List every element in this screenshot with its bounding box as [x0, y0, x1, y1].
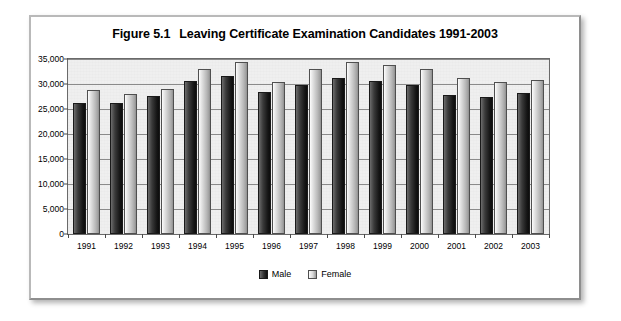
x-axis-tick-label-1996: 1996 — [262, 241, 281, 251]
x-axis-tick-label-2000: 2000 — [410, 241, 429, 251]
bar-male-1998 — [332, 78, 345, 234]
bar-male-1992 — [110, 103, 123, 235]
bar-group-2001 — [443, 59, 470, 234]
bar-female-1996 — [272, 82, 285, 234]
bar-male-1994 — [184, 81, 197, 234]
bar-group-1995 — [221, 59, 248, 234]
bar-female-2002 — [494, 82, 507, 234]
bars-layer — [68, 59, 549, 234]
bar-male-2003 — [517, 93, 530, 235]
x-axis-tick-label-1994: 1994 — [188, 241, 207, 251]
bar-male-1995 — [221, 76, 234, 235]
bar-group-1996 — [258, 59, 285, 234]
x-axis-tick-label-1992: 1992 — [114, 241, 133, 251]
figure-card: Figure 5.1Leaving Certificate Examinatio… — [29, 15, 581, 300]
legend-label-female: Female — [321, 269, 351, 279]
x-axis-tick-mark — [68, 234, 69, 238]
y-axis-tick-label: 35,000 — [38, 54, 64, 64]
figure-title-text: Leaving Certificate Examination Candidat… — [179, 27, 498, 41]
x-axis-tick-mark — [364, 234, 365, 238]
chart-title: Figure 5.1Leaving Certificate Examinatio… — [31, 27, 579, 41]
figure-number: Figure 5.1 — [112, 27, 170, 41]
bar-female-1995 — [235, 62, 248, 234]
x-axis-tick-label-2003: 2003 — [521, 241, 540, 251]
chart-legend: Male Female — [31, 269, 579, 279]
bar-female-1992 — [124, 94, 137, 235]
x-axis-tick-mark — [142, 234, 143, 238]
x-axis-tick-label-1999: 1999 — [373, 241, 392, 251]
x-axis-tick-label-2002: 2002 — [484, 241, 503, 251]
bar-group-1993 — [147, 59, 174, 234]
bar-male-2001 — [443, 95, 456, 235]
bar-male-1999 — [369, 81, 382, 235]
y-axis-tick-label: 25,000 — [38, 104, 64, 114]
bar-male-1991 — [73, 103, 86, 235]
legend-label-male: Male — [272, 269, 292, 279]
y-axis-tick-label: 30,000 — [38, 79, 64, 89]
x-axis-tick-label-1995: 1995 — [225, 241, 244, 251]
x-axis-tick-mark — [105, 234, 106, 238]
bar-male-1993 — [147, 96, 160, 234]
x-axis-tick-mark — [512, 234, 513, 238]
x-axis-tick-label-1991: 1991 — [77, 241, 96, 251]
y-axis-tick-label: 15,000 — [38, 154, 64, 164]
x-axis-tick-mark — [216, 234, 217, 238]
x-axis-tick-mark — [475, 234, 476, 238]
bar-group-1998 — [332, 59, 359, 234]
y-axis-tick-label: 20,000 — [38, 129, 64, 139]
legend-item-female: Female — [308, 269, 351, 279]
bar-female-1998 — [346, 62, 359, 234]
x-axis-tick-label-2001: 2001 — [447, 241, 466, 251]
x-axis-tick-mark — [401, 234, 402, 238]
bar-female-1993 — [161, 89, 174, 234]
bar-group-2000 — [406, 59, 433, 234]
x-axis-tick-label-1993: 1993 — [151, 241, 170, 251]
bar-male-1997 — [295, 85, 308, 234]
bar-male-2000 — [406, 85, 419, 235]
bar-female-1991 — [87, 90, 100, 235]
bar-female-1999 — [383, 65, 396, 235]
bar-female-2001 — [457, 78, 470, 234]
y-axis-tick-label: 0 — [59, 229, 64, 239]
bar-female-1994 — [198, 69, 211, 234]
bar-group-2002 — [480, 59, 507, 234]
x-axis-tick-mark — [327, 234, 328, 238]
bar-female-1997 — [309, 69, 322, 234]
x-axis-tick-mark — [438, 234, 439, 238]
legend-swatch-male-icon — [259, 270, 268, 279]
bar-group-2003 — [517, 59, 544, 234]
x-axis-tick-mark — [253, 234, 254, 238]
bar-group-1999 — [369, 59, 396, 234]
legend-item-male: Male — [259, 269, 292, 279]
x-axis-tick-mark — [179, 234, 180, 238]
bar-male-1996 — [258, 92, 271, 234]
bar-group-1997 — [295, 59, 322, 234]
x-axis-tick-label-1997: 1997 — [299, 241, 318, 251]
legend-swatch-female-icon — [308, 270, 317, 279]
bar-male-2002 — [480, 97, 493, 234]
bar-female-2000 — [420, 69, 433, 235]
y-axis-tick-label: 5,000 — [43, 204, 64, 214]
x-axis-tick-mark — [290, 234, 291, 238]
x-axis-tick-mark — [549, 234, 550, 238]
x-axis-tick-label-1998: 1998 — [336, 241, 355, 251]
y-axis-tick-label: 10,000 — [38, 179, 64, 189]
bar-group-1994 — [184, 59, 211, 234]
plot-area: 05,00010,00015,00020,00025,00030,00035,0… — [67, 58, 550, 235]
bar-female-2003 — [531, 80, 544, 234]
bar-group-1991 — [73, 59, 100, 234]
bar-group-1992 — [110, 59, 137, 234]
